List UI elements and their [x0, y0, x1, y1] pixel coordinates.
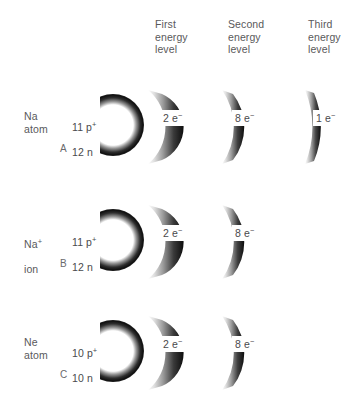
proton-charge-sign: +	[92, 234, 96, 243]
electron-count: 2 e	[163, 338, 178, 350]
shell-arc-na-atom-first	[146, 88, 186, 166]
electron-charge-sign: −	[331, 111, 335, 120]
shell-arc-na-atom-third	[303, 88, 331, 166]
proton-charge-sign: +	[92, 119, 96, 128]
nucleus-label-ne-atom: 10 p+ 10 n	[72, 334, 97, 384]
shell-label-na-ion-second: 8 e−	[232, 225, 257, 241]
shell-label-na-atom-first: 2 e−	[160, 110, 185, 126]
shell-arc-na-ion-second	[220, 203, 254, 281]
row-letter-c: C	[60, 369, 67, 380]
electron-charge-sign: −	[250, 111, 254, 120]
electron-count: 1 e	[316, 112, 331, 124]
shell-label-ne-atom-second: 8 e−	[232, 336, 257, 352]
nucleus-label-na-ion: 11 p+ 12 n	[72, 223, 97, 273]
electron-charge-sign: −	[250, 337, 254, 346]
proton-count: 11 p	[72, 236, 92, 248]
shell-arc-na-atom-second	[220, 88, 254, 166]
electron-count: 8 e	[235, 112, 250, 124]
shell-label-na-atom-second: 8 e−	[232, 110, 257, 126]
shell-arc-ne-atom-first	[146, 314, 186, 392]
electron-charge-sign: −	[178, 111, 182, 120]
column-header-first-energy-level: First energy level	[155, 18, 188, 56]
nucleus-na-atom	[100, 94, 144, 156]
electron-charge-sign: −	[178, 337, 182, 346]
proton-count: 10 p	[72, 347, 93, 359]
electron-count: 2 e	[163, 227, 178, 239]
shell-label-ne-atom-first: 2 e−	[160, 336, 185, 352]
species-kind: ion	[24, 263, 38, 275]
ion-charge-sign: +	[38, 236, 42, 245]
shell-arc-na-ion-first	[146, 203, 186, 281]
row-label-na-atom: Na atom	[24, 110, 48, 135]
electron-count: 8 e	[235, 338, 250, 350]
electron-count: 8 e	[235, 227, 250, 239]
shell-label-na-ion-first: 2 e−	[160, 225, 185, 241]
shell-label-na-atom-third: 1 e−	[313, 110, 338, 126]
row-label-na-ion: Na+ ion	[24, 225, 42, 275]
neutron-count: 12 n	[72, 261, 93, 273]
column-header-third-energy-level: Third energy level	[308, 18, 341, 56]
diagram-canvas: First energy level Second energy level T…	[0, 0, 362, 395]
nucleus-na-ion	[100, 209, 144, 271]
nucleus-label-na-atom: 11 p+ 12 n	[72, 108, 97, 158]
column-header-second-energy-level: Second energy level	[228, 18, 264, 56]
electron-charge-sign: −	[250, 226, 254, 235]
proton-count: 11 p	[72, 121, 92, 133]
row-letter-b: B	[60, 258, 67, 269]
proton-charge-sign: +	[93, 345, 97, 354]
electron-count: 2 e	[163, 112, 178, 124]
electron-charge-sign: −	[178, 226, 182, 235]
neutron-count: 10 n	[72, 372, 93, 384]
species-symbol: Na	[24, 238, 38, 250]
row-letter-a: A	[60, 143, 67, 154]
nucleus-ne-atom	[100, 320, 144, 382]
row-label-ne-atom: Ne atom	[24, 336, 48, 361]
shell-arc-ne-atom-second	[220, 314, 254, 392]
neutron-count: 12 n	[72, 146, 93, 158]
